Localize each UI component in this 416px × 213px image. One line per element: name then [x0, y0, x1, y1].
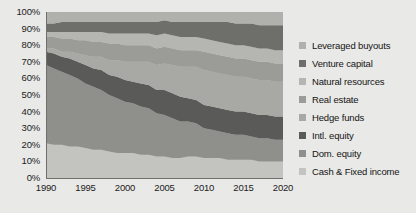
- legend-item[interactable]: Real estate: [299, 90, 414, 108]
- legend-label: Natural resources: [312, 76, 384, 87]
- legend-label: Leveraged buyouts: [312, 40, 390, 51]
- x-tick-label: 2020: [263, 182, 303, 193]
- legend-item[interactable]: Leveraged buyouts: [299, 36, 414, 54]
- x-axis-line: [46, 178, 283, 179]
- legend-swatch-icon: [299, 114, 306, 121]
- legend-label: Intl. equity: [312, 130, 354, 141]
- legend-swatch-icon: [299, 42, 306, 49]
- area-series-group: [46, 12, 283, 178]
- legend-label: Dom. equity: [312, 148, 361, 159]
- x-tick-label: 1995: [66, 182, 106, 193]
- legend-swatch-icon: [299, 60, 306, 67]
- legend-label: Cash & Fixed income: [312, 166, 399, 177]
- legend: Leveraged buyoutsVenture capitalNatural …: [299, 36, 414, 180]
- legend-item[interactable]: Intl. equity: [299, 126, 414, 144]
- legend-item[interactable]: Natural resources: [299, 72, 414, 90]
- x-tick-label: 2015: [224, 182, 264, 193]
- y-tick-label: 40%: [2, 106, 40, 117]
- y-axis-line: [46, 12, 47, 178]
- legend-label: Venture capital: [312, 58, 373, 69]
- legend-item[interactable]: Hedge funds: [299, 108, 414, 126]
- plot-area: [46, 12, 283, 178]
- legend-swatch-icon: [299, 132, 306, 139]
- stacked-area-chart: 100%90%80%70%60%50%40%30%20%10%0% 199019…: [0, 0, 416, 213]
- legend-label: Hedge funds: [312, 112, 364, 123]
- legend-swatch-icon: [299, 78, 306, 85]
- x-tick-label: 2000: [105, 182, 145, 193]
- y-tick-label: 80%: [2, 39, 40, 50]
- y-tick-label: 10%: [2, 155, 40, 166]
- legend-item[interactable]: Venture capital: [299, 54, 414, 72]
- legend-item[interactable]: Dom. equity: [299, 144, 414, 162]
- y-tick-label: 70%: [2, 56, 40, 67]
- y-tick-label: 30%: [2, 122, 40, 133]
- y-tick-label: 100%: [2, 6, 40, 17]
- y-tick-label: 20%: [2, 139, 40, 150]
- legend-swatch-icon: [299, 168, 306, 175]
- legend-item[interactable]: Cash & Fixed income: [299, 162, 414, 180]
- legend-label: Real estate: [312, 94, 358, 105]
- y-tick-label: 50%: [2, 89, 40, 100]
- x-tick-label: 2005: [145, 182, 185, 193]
- y-tick-label: 90%: [2, 23, 40, 34]
- x-tick-label: 2010: [184, 182, 224, 193]
- x-tick-label: 1990: [26, 182, 66, 193]
- y-tick-label: 60%: [2, 72, 40, 83]
- legend-swatch-icon: [299, 96, 306, 103]
- legend-swatch-icon: [299, 150, 306, 157]
